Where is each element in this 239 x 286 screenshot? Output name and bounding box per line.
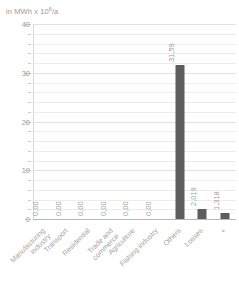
y-tick-mark-minor xyxy=(28,131,31,132)
y-tick-mark-minor xyxy=(28,151,31,152)
y-tick-mark-minor xyxy=(28,92,31,93)
bar[interactable] xyxy=(198,209,207,219)
bar-slot: 2,019 xyxy=(191,24,214,219)
y-tick-mark-minor xyxy=(28,53,31,54)
y-tick-mark-minor xyxy=(28,161,31,162)
bar-value-label: 0,00 xyxy=(99,201,108,216)
axis-unit-text: in MWh x 106/a xyxy=(6,7,58,16)
y-tick-label: 20 xyxy=(2,117,30,126)
y-tick-mark-minor xyxy=(28,200,31,201)
bar-slot: 1,318 xyxy=(213,24,236,219)
category-slot: + xyxy=(213,222,236,286)
bar-value-label: 0,00 xyxy=(144,201,153,216)
bar-value-label: 1,318 xyxy=(212,191,221,210)
axis-unit-caption: in MWh x 106/a xyxy=(6,7,58,16)
y-tick-label: 30 xyxy=(2,68,30,77)
bar[interactable] xyxy=(175,65,184,219)
bar-slot: 0,00 xyxy=(33,24,56,219)
axis-unit-exponent: 6 xyxy=(49,6,52,12)
bar[interactable] xyxy=(220,213,229,219)
bar-slot: 0,00 xyxy=(146,24,169,219)
bar-value-label: 2,019 xyxy=(189,187,198,206)
y-axis-labels: 010203040 xyxy=(0,24,31,220)
y-tick-mark-minor xyxy=(28,112,31,113)
y-tick-label: 0 xyxy=(2,215,30,224)
y-tick-label: 40 xyxy=(2,20,30,29)
bar-value-label: 0,00 xyxy=(121,201,130,216)
bar-value-label: 0,00 xyxy=(31,201,40,216)
y-tick-mark-minor xyxy=(28,141,31,142)
bar-slot: 0,00 xyxy=(56,24,79,219)
y-tick-mark-minor xyxy=(28,102,31,103)
bars-layer: 0,000,000,000,000,000,0031,592,0191,318 xyxy=(33,24,236,219)
x-axis-line xyxy=(33,219,236,220)
y-tick-mark-minor xyxy=(28,190,31,191)
y-tick-mark-minor xyxy=(28,44,31,45)
y-tick-label: 10 xyxy=(2,166,30,175)
bar-chart: in MWh x 106/a 010203040 0,000,000,000,0… xyxy=(0,0,239,286)
bar-value-label: 0,00 xyxy=(54,201,63,216)
y-tick-mark-minor xyxy=(28,63,31,64)
y-tick-mark-minor xyxy=(28,83,31,84)
bar-slot: 0,00 xyxy=(123,24,146,219)
y-tick-mark-minor xyxy=(28,180,31,181)
y-tick-mark-minor xyxy=(28,34,31,35)
bar-value-label: 31,59 xyxy=(167,43,176,62)
bar-slot: 0,00 xyxy=(78,24,101,219)
bar-slot: 0,00 xyxy=(101,24,124,219)
bar-slot: 31,59 xyxy=(168,24,191,219)
x-axis-category-labels: Manufacturing industryTransportResidenti… xyxy=(33,222,236,286)
bar-value-label: 0,00 xyxy=(76,201,85,216)
